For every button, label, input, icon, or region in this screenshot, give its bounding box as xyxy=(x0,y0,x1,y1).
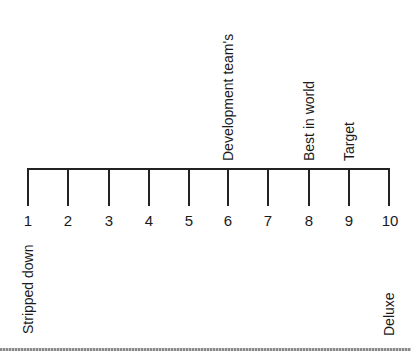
tick-label-2: 2 xyxy=(53,213,83,229)
tick-8 xyxy=(308,168,310,206)
right-end-label: Deluxe xyxy=(381,292,397,336)
tick-label-10: 10 xyxy=(375,213,405,229)
tick-label-4: 4 xyxy=(134,213,164,229)
tick-5 xyxy=(188,168,190,206)
tick-3 xyxy=(108,168,110,206)
tick-label-1: 1 xyxy=(13,213,43,229)
marker-label-development-team: Development team's xyxy=(220,34,236,161)
tick-7 xyxy=(267,168,269,206)
tick-label-5: 5 xyxy=(174,213,204,229)
tick-9 xyxy=(348,168,350,206)
dotted-divider xyxy=(0,348,411,351)
tick-label-7: 7 xyxy=(253,213,283,229)
tick-4 xyxy=(148,168,150,206)
tick-10 xyxy=(388,168,390,206)
tick-label-9: 9 xyxy=(334,213,364,229)
left-end-label: Stripped down xyxy=(20,244,36,334)
tick-1 xyxy=(27,168,29,206)
tick-6 xyxy=(227,168,229,206)
marker-label-target: Target xyxy=(341,122,357,161)
tick-label-3: 3 xyxy=(94,213,124,229)
tick-label-8: 8 xyxy=(294,213,324,229)
scale-axis-line xyxy=(27,168,390,170)
tick-label-6: 6 xyxy=(213,213,243,229)
marker-label-best-in-world: Best in world xyxy=(301,81,317,161)
tick-2 xyxy=(67,168,69,206)
